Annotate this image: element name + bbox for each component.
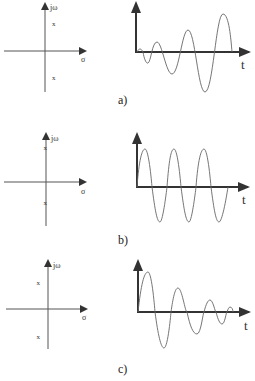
pole-plot-b: jω σ x x xyxy=(4,134,86,226)
sigma-label: σ xyxy=(81,187,86,196)
pole-marker: x xyxy=(37,279,41,287)
jw-label: jω xyxy=(50,134,59,143)
jw-label: jω xyxy=(49,3,58,12)
pole-marker: x xyxy=(52,20,56,28)
t-label: t xyxy=(241,57,245,72)
t-label: t xyxy=(242,192,246,207)
sigma-label: σ xyxy=(81,55,86,64)
pole-marker: x xyxy=(44,144,48,152)
t-label: t xyxy=(244,318,248,333)
response-plot-a: t xyxy=(136,3,249,92)
response-plot-c: t xyxy=(138,261,249,348)
sustained-oscillation-curve xyxy=(137,149,228,222)
jw-label: jω xyxy=(52,261,61,270)
caption-a: a) xyxy=(118,93,127,107)
pole-marker: x xyxy=(52,74,56,82)
caption-b: b) xyxy=(118,233,128,247)
pole-response-figure: jω σ x x t a) jω σ x x t b) xyxy=(0,0,255,381)
pole-plot-a: jω σ x x xyxy=(4,3,86,92)
response-plot-b: t xyxy=(137,134,248,222)
pole-marker: x xyxy=(44,199,48,207)
caption-c: c) xyxy=(118,362,127,376)
pole-marker: x xyxy=(37,333,41,341)
pole-plot-c: jω σ x x xyxy=(6,261,87,349)
panel-b: jω σ x x t b) xyxy=(4,134,248,247)
panel-a: jω σ x x t a) xyxy=(4,3,249,107)
sigma-label: σ xyxy=(82,313,87,322)
decaying-oscillation-curve xyxy=(138,272,233,348)
panel-c: jω σ x x t c) xyxy=(6,261,249,376)
